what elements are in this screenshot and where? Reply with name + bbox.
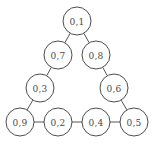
graph-node[interactable]: 0,3 xyxy=(26,74,54,102)
graph-edge xyxy=(65,33,70,43)
graph-node[interactable]: 0,6 xyxy=(100,74,128,102)
graph-node[interactable]: 0,2 xyxy=(44,108,72,136)
graph-node[interactable]: 0,9 xyxy=(6,108,34,136)
graph-node-label: 0,4 xyxy=(89,118,104,128)
graph-node-label: 0,2 xyxy=(51,118,66,128)
graph-node-label: 0,9 xyxy=(13,118,28,128)
graph-edge xyxy=(27,100,33,110)
graph-edge xyxy=(121,100,127,110)
graph-node[interactable]: 0,8 xyxy=(82,41,110,69)
graph-node-label: 0,1 xyxy=(70,17,85,27)
graph-node-label: 0,5 xyxy=(127,118,142,128)
graph-node-label: 0,3 xyxy=(33,84,48,94)
graph-node-label: 0,8 xyxy=(89,51,104,61)
graph-node[interactable]: 0,1 xyxy=(63,7,91,35)
graph-figure: 0,10,70,80,30,60,90,20,40,5 xyxy=(0,0,154,144)
graph-node-label: 0,6 xyxy=(107,84,122,94)
graph-node[interactable]: 0,4 xyxy=(82,108,110,136)
graph-canvas: 0,10,70,80,30,60,90,20,40,5 xyxy=(0,0,154,144)
graph-edge xyxy=(103,67,108,75)
nodes-layer: 0,10,70,80,30,60,90,20,40,5 xyxy=(6,7,148,136)
graph-node-label: 0,7 xyxy=(51,51,66,61)
graph-node[interactable]: 0,5 xyxy=(120,108,148,136)
graph-node[interactable]: 0,7 xyxy=(44,41,72,69)
graph-edge xyxy=(84,33,89,43)
graph-edge xyxy=(47,67,52,75)
